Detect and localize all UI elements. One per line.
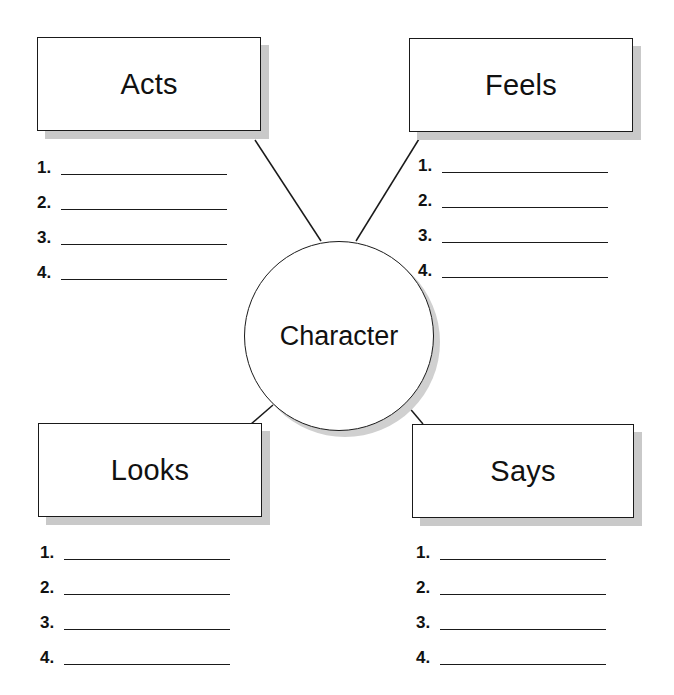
list-item: 2.	[40, 563, 240, 598]
answer-blank[interactable]	[64, 629, 230, 630]
answer-blank[interactable]	[61, 209, 227, 210]
list-item: 3.	[40, 598, 240, 633]
acts-box: Acts	[37, 37, 261, 131]
list-item: 4.	[37, 248, 237, 283]
item-number: 4.	[37, 263, 59, 283]
item-number: 3.	[40, 613, 62, 633]
looks-label: Looks	[111, 454, 189, 487]
answer-blank[interactable]	[442, 207, 608, 208]
list-item: 1.	[40, 528, 240, 563]
acts-label: Acts	[120, 68, 177, 101]
connector-says	[407, 405, 423, 424]
character-circle: Character	[244, 241, 434, 431]
connector-looks	[251, 405, 273, 424]
answer-blank[interactable]	[61, 174, 227, 175]
answer-blank[interactable]	[442, 242, 608, 243]
item-number: 3.	[418, 226, 440, 246]
list-item: 4.	[40, 633, 240, 668]
answer-blank[interactable]	[64, 559, 230, 560]
character-label: Character	[280, 321, 399, 352]
item-number: 1.	[418, 156, 440, 176]
item-number: 4.	[40, 648, 62, 668]
list-item: 3.	[418, 211, 618, 246]
looks-list: 1. 2. 3. 4.	[40, 528, 240, 668]
item-number: 2.	[37, 193, 59, 213]
list-item: 1.	[37, 143, 237, 178]
connector-feels	[356, 139, 419, 241]
item-number: 3.	[416, 613, 438, 633]
item-number: 1.	[416, 543, 438, 563]
answer-blank[interactable]	[440, 594, 606, 595]
answer-blank[interactable]	[440, 629, 606, 630]
item-number: 3.	[37, 228, 59, 248]
connector-acts	[255, 140, 321, 241]
answer-blank[interactable]	[61, 279, 227, 280]
answer-blank[interactable]	[440, 664, 606, 665]
item-number: 2.	[418, 191, 440, 211]
item-number: 4.	[418, 261, 440, 281]
item-number: 2.	[416, 578, 438, 598]
item-number: 2.	[40, 578, 62, 598]
list-item: 2.	[416, 563, 616, 598]
answer-blank[interactable]	[64, 664, 230, 665]
looks-box: Looks	[38, 423, 262, 517]
item-number: 1.	[37, 158, 59, 178]
says-list: 1. 2. 3. 4.	[416, 528, 616, 668]
says-label: Says	[490, 455, 555, 488]
list-item: 1.	[418, 141, 618, 176]
item-number: 1.	[40, 543, 62, 563]
list-item: 3.	[416, 598, 616, 633]
feels-list: 1. 2. 3. 4.	[418, 141, 618, 281]
item-number: 4.	[416, 648, 438, 668]
list-item: 4.	[418, 246, 618, 281]
answer-blank[interactable]	[61, 244, 227, 245]
feels-box: Feels	[409, 38, 633, 132]
answer-blank[interactable]	[440, 559, 606, 560]
list-item: 1.	[416, 528, 616, 563]
answer-blank[interactable]	[442, 277, 608, 278]
list-item: 2.	[418, 176, 618, 211]
list-item: 4.	[416, 633, 616, 668]
says-box: Says	[412, 424, 634, 518]
feels-label: Feels	[485, 69, 557, 102]
list-item: 3.	[37, 213, 237, 248]
list-item: 2.	[37, 178, 237, 213]
acts-list: 1. 2. 3. 4.	[37, 143, 237, 283]
answer-blank[interactable]	[442, 172, 608, 173]
answer-blank[interactable]	[64, 594, 230, 595]
